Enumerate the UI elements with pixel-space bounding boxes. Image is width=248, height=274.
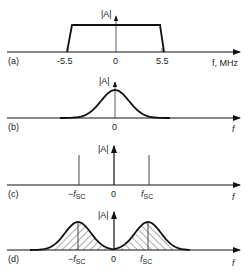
panel-c-tick-label-pos: fSC xyxy=(141,189,153,200)
panel-d-tick-label-zero: 0 xyxy=(111,254,116,264)
panel-a-tick-label-zero: 0 xyxy=(113,56,118,66)
panel-c-tick-label-neg: −fSC xyxy=(68,189,86,200)
panel-a-rectangular-spectrum xyxy=(67,25,164,52)
panel-b-x-label: f xyxy=(232,124,236,134)
panel-a-tick-label-pos: 5.5 xyxy=(156,56,169,66)
panel-c: |A| (c) −fSC 0 fSC f xyxy=(7,144,240,202)
spectrum-figure: |A| (a) -5.5 0 5.5 f, MHz |A| (b) 0 f |A… xyxy=(0,0,248,274)
panel-d-label: (d) xyxy=(8,254,19,264)
panel-b-label: (b) xyxy=(8,122,19,132)
panel-d-tick-label-pos: fSC xyxy=(140,254,152,265)
panel-d-hatched-sideband-pos xyxy=(114,222,190,250)
panel-d-tick-label-neg: −fSC xyxy=(68,254,86,265)
panel-a-x-label: f, MHz xyxy=(212,58,238,68)
panel-c-tick-label-zero: 0 xyxy=(111,189,116,199)
panel-a-tick-label-neg: -5.5 xyxy=(57,56,73,66)
panel-c-x-label: f xyxy=(232,192,236,202)
panel-c-y-label: |A| xyxy=(98,144,109,154)
panel-d-y-label: |A| xyxy=(98,210,109,220)
panel-d-hatched-sideband-neg xyxy=(30,222,114,250)
panel-b-y-label: |A| xyxy=(99,76,110,86)
panel-d-x-label: f xyxy=(232,258,236,268)
panel-b-tick-label-zero: 0 xyxy=(112,122,117,132)
panel-d: |A| (d) −fSC 0 fSC f xyxy=(7,210,240,268)
panel-a-y-label: |A| xyxy=(101,9,112,19)
panel-c-label: (c) xyxy=(8,189,19,199)
panel-a: |A| (a) -5.5 0 5.5 f, MHz xyxy=(7,9,240,68)
panel-b: |A| (b) 0 f xyxy=(7,76,240,134)
panel-a-label: (a) xyxy=(8,56,19,66)
